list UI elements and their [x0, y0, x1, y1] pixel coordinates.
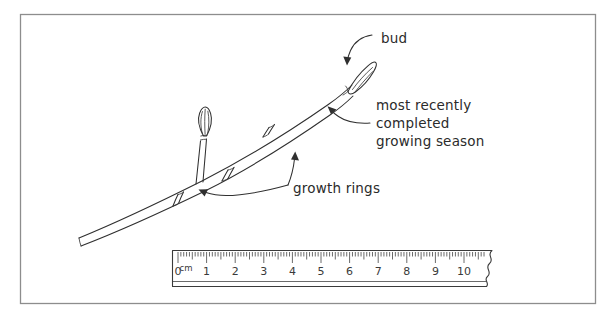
growing-season-arrow — [328, 106, 371, 123]
bud-arrow — [343, 35, 372, 66]
label-bud: bud — [381, 30, 407, 46]
ruler-number: 10 — [457, 265, 471, 278]
ruler-number: 4 — [289, 265, 296, 278]
label-season-line1: most recently — [376, 97, 472, 113]
ruler-number: 5 — [318, 265, 325, 278]
ruler-number: 2 — [232, 265, 239, 278]
lateral-branch — [196, 135, 207, 184]
ruler-unit-label: cm — [180, 263, 193, 273]
ruler-number: 6 — [346, 265, 353, 278]
twig — [79, 85, 353, 246]
ruler-number: 7 — [375, 265, 382, 278]
ruler-number: 8 — [403, 265, 410, 278]
terminal-bud — [343, 62, 376, 95]
growth-ring-upper — [263, 125, 275, 138]
ruler: 012345678910 cm — [173, 251, 493, 287]
ruler-number: 1 — [203, 265, 210, 278]
ruler-number: 3 — [260, 265, 267, 278]
diagram-canvas: bud most recently completed growing seas… — [0, 0, 613, 319]
label-season-line2: completed — [376, 115, 449, 131]
diagram-figure: bud most recently completed growing seas… — [0, 0, 613, 319]
label-season-line3: growing season — [376, 133, 485, 149]
lateral-bud — [199, 107, 212, 136]
growth-rings-arrow — [199, 152, 300, 197]
ruler-number: 9 — [432, 265, 439, 278]
label-growth-rings: growth rings — [293, 180, 380, 196]
